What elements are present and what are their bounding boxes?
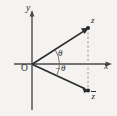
point-z-conjugate-label: z xyxy=(91,92,96,101)
y-axis-arrowhead xyxy=(30,10,35,16)
point-z-label: z xyxy=(91,16,95,25)
point-z-conjugate-marker xyxy=(86,88,90,92)
figure-canvas xyxy=(0,0,117,116)
complex-plane-figure: y x O z z θ −θ xyxy=(0,0,117,116)
angle-theta-label: θ xyxy=(58,49,62,58)
angle-negative-theta-label: −θ xyxy=(55,64,66,73)
origin-label: O xyxy=(21,64,28,74)
y-axis-label: y xyxy=(26,4,30,14)
point-z-conjugate-label-text: z xyxy=(91,92,96,101)
point-z-marker xyxy=(86,26,90,30)
x-axis-label: x xyxy=(104,62,108,72)
